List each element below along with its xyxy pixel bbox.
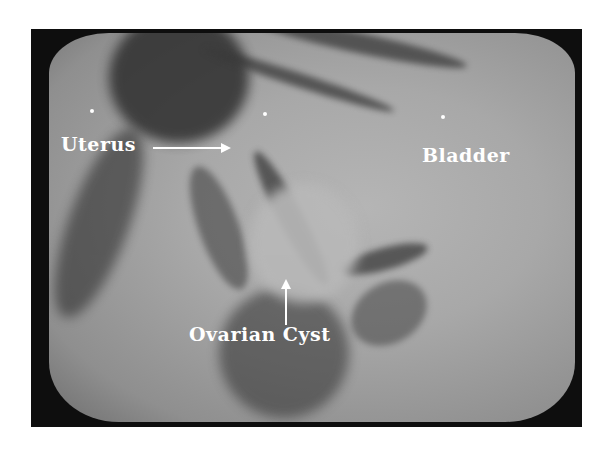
cyst-interior xyxy=(249,183,359,303)
ovarian-cyst-label: Ovarian Cyst xyxy=(189,323,331,345)
ultrasound-photo: Uterus Bladder Ovarian Cyst xyxy=(31,29,582,427)
uterus-arrow xyxy=(153,147,223,149)
marker-dot-right xyxy=(441,115,445,119)
uterus-label: Uterus xyxy=(61,133,136,155)
marker-dot-center xyxy=(263,112,267,116)
lower-right-streaks xyxy=(339,267,438,359)
marker-dot-left xyxy=(90,109,94,113)
ultrasound-screen xyxy=(49,33,575,422)
ovarian-cyst-arrow xyxy=(285,287,287,325)
cyst-wall-left xyxy=(178,160,260,296)
upper-left-shadow xyxy=(109,33,249,143)
bladder-label: Bladder xyxy=(422,144,510,166)
lower-cone xyxy=(219,288,349,418)
